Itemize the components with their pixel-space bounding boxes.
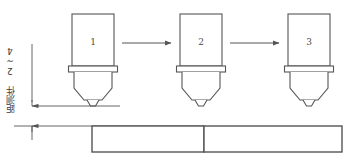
torch-tip-1 <box>87 100 99 106</box>
station-2-number: 2 <box>194 37 208 47</box>
workpiece-left[interactable] <box>92 126 204 152</box>
torch-collar-3 <box>285 66 334 72</box>
torch-station-2[interactable] <box>177 14 226 106</box>
torch-cone-2 <box>182 72 220 100</box>
station-3-number: 3 <box>302 37 316 47</box>
torch-cone-1 <box>74 72 112 100</box>
torch-collar-2 <box>177 66 226 72</box>
torch-station-3[interactable] <box>285 14 334 106</box>
torch-tip-2 <box>195 100 207 106</box>
distance-annotation-label: 距测件 2~4 <box>5 44 21 116</box>
torch-station-1[interactable] <box>69 14 118 106</box>
torch-cone-3 <box>290 72 328 100</box>
torch-collar-1 <box>69 66 118 72</box>
workpiece-right[interactable] <box>204 126 342 152</box>
torch-tip-3 <box>303 100 315 106</box>
diagram-svg <box>0 0 356 165</box>
station-1-number: 1 <box>86 37 100 47</box>
diagram-canvas: 距测件 2~4 1 2 3 <box>0 0 356 165</box>
